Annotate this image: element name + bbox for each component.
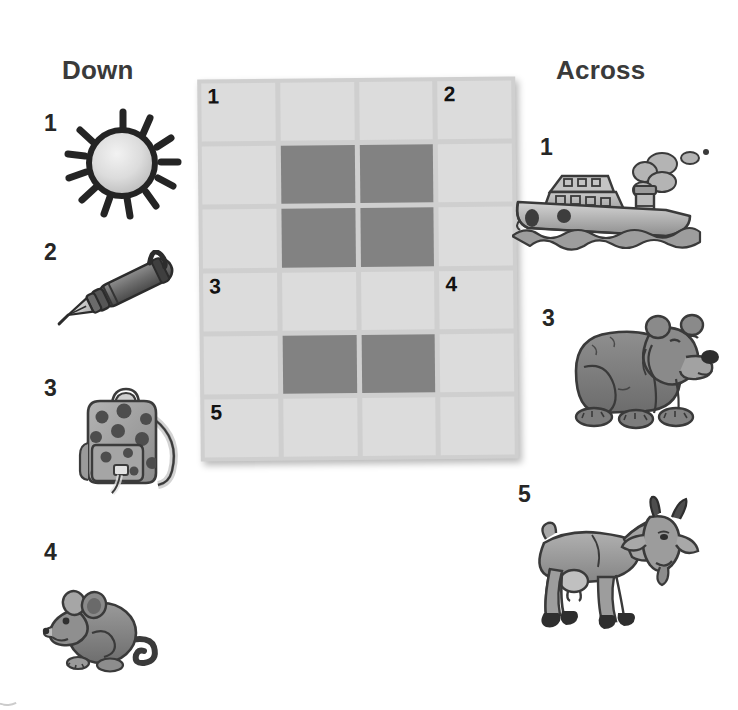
boat-icon [512,140,727,255]
crossword-grid-cells: 1 2 [197,76,519,461]
grid-cell-r3c3-blocked [360,208,434,267]
down-clue-picture-2 [48,250,188,336]
crossword-grid[interactable]: 1 2 [197,76,519,461]
grid-cell-r1c3[interactable] [359,81,433,140]
grid-cell-r4c1[interactable]: 3 [203,272,277,331]
down-clue-picture-1 [58,100,188,225]
grid-cell-number: 3 [209,275,221,297]
grid-cell-number: 2 [443,83,455,105]
grid-cell-r4c2[interactable] [282,272,356,331]
bear-icon [558,305,728,435]
grid-cell-r6c4[interactable] [440,396,514,455]
down-clue-picture-4 [40,575,180,680]
across-clue-number-3: 3 [542,307,555,330]
across-clue-picture-3 [558,305,728,435]
grid-cell-r5c4[interactable] [440,333,514,392]
grid-cell-r1c4[interactable]: 2 [437,81,511,140]
backpack-icon [62,383,192,501]
down-clue-number-3: 3 [44,377,57,400]
grid-cell-r3c2-blocked [281,208,355,267]
down-clue-number-1: 1 [44,112,57,135]
grid-cell-number: 1 [207,85,219,107]
grid-cell-r5c2-blocked [282,335,356,394]
grid-cell-r2c2-blocked [281,145,355,204]
sun-icon [58,100,188,225]
mouse-icon [40,575,180,680]
pen-icon [48,250,188,336]
grid-cell-r4c3[interactable] [361,271,435,330]
grid-cell-r3c1[interactable] [202,209,276,268]
grid-cell-r4c4[interactable]: 4 [439,270,513,329]
grid-cell-r2c4[interactable] [438,144,512,203]
grid-cell-r5c1[interactable] [204,335,278,394]
across-column-heading: Across [556,55,645,86]
down-clue-number-4: 4 [44,541,57,564]
down-clue-picture-3 [62,383,192,501]
grid-cell-r1c1[interactable]: 1 [201,83,275,142]
grid-cell-r1c2[interactable] [280,82,354,141]
down-column-heading: Down [62,55,134,86]
across-clue-picture-5 [520,495,715,645]
grid-cell-number: 5 [210,401,222,423]
grid-cell-r6c2[interactable] [283,398,357,457]
grid-cell-r2c3-blocked [359,144,433,203]
grid-cell-number: 4 [445,273,457,295]
grid-cell-r3c4[interactable] [439,207,513,266]
grid-cell-r5c3-blocked [361,334,435,393]
across-clue-picture-1 [512,140,727,255]
grid-cell-r6c3[interactable] [362,397,436,456]
grid-cell-r2c1[interactable] [202,146,276,205]
page-corner-curl [0,659,33,710]
grid-cell-r6c1[interactable]: 5 [204,399,278,458]
goat-icon [520,495,715,645]
